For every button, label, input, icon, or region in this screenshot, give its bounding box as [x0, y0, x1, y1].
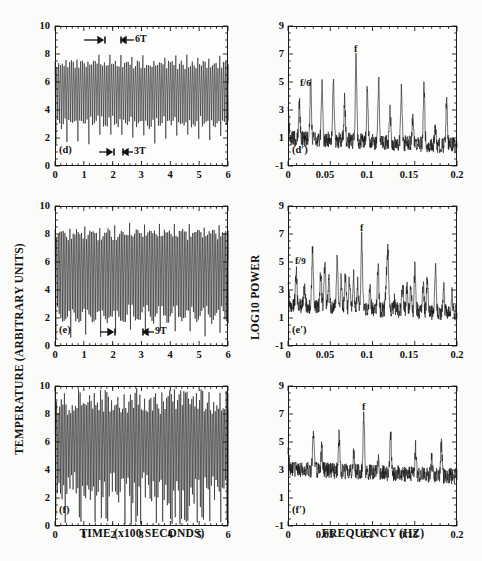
panel-f-prime: f (f′) — [288, 386, 457, 526]
xtick: 1 — [74, 530, 94, 541]
panel-label-d-prime: (d′) — [292, 145, 308, 156]
xtick: 0 — [45, 170, 65, 181]
panel-e-plot — [55, 206, 228, 346]
ytick: 9 — [262, 201, 284, 212]
panel-f-plot — [55, 386, 228, 526]
xtick: 0.2 — [444, 350, 470, 361]
annotation-6t-label: 6T — [135, 34, 147, 44]
xtick: 0.1 — [353, 170, 381, 181]
panel-f-trace — [55, 388, 228, 524]
xtick: 2 — [103, 530, 123, 541]
panel-e-prime-trace — [288, 232, 457, 320]
panel-f-prime-plot — [288, 386, 457, 526]
ytick: 5 — [262, 77, 284, 88]
xtick: 6 — [218, 170, 238, 181]
panel-f: (f) — [55, 386, 228, 526]
panel-e: 9T (e) — [55, 206, 228, 346]
ytick: 4 — [28, 465, 50, 476]
panel-f-prime-trace — [288, 412, 457, 484]
panel-label-e-prime: (e′) — [292, 325, 307, 336]
xtick: 0.2 — [444, 530, 470, 541]
peak-label-subharmonic-ep: f/9 — [295, 256, 306, 266]
ytick: 10 — [28, 381, 50, 392]
xtick: 0 — [45, 530, 65, 541]
left-y-axis-title: TEMPERATURE (ARBITRARY UNITS) — [14, 243, 26, 455]
panel-d-prime-trace — [288, 53, 457, 153]
xtick: 2 — [103, 170, 123, 181]
xtick: 5 — [189, 350, 209, 361]
xtick: 0.05 — [308, 170, 342, 181]
ytick: 1 — [262, 133, 284, 144]
ytick: 10 — [28, 201, 50, 212]
xtick: 0 — [278, 350, 298, 361]
ytick: 8 — [28, 49, 50, 60]
xtick: 3 — [131, 170, 151, 181]
xtick: 3 — [131, 350, 151, 361]
panel-d-trace — [55, 55, 228, 144]
xtick: 1 — [74, 170, 94, 181]
xtick: 4 — [160, 350, 180, 361]
ytick: 2 — [28, 133, 50, 144]
ytick: 9 — [262, 381, 284, 392]
ytick: 6 — [28, 257, 50, 268]
ytick: 1 — [262, 493, 284, 504]
xtick: 0.15 — [392, 350, 426, 361]
ytick: 5 — [262, 257, 284, 268]
panel-label-f-prime: (f′) — [292, 505, 305, 516]
panel-e-prime-plot — [288, 206, 457, 346]
panel-d-prime: f f/6 (d′) — [288, 26, 457, 166]
panel-e-prime: f f/9 (e′) — [288, 206, 457, 346]
xtick: 0.1 — [353, 530, 381, 541]
ytick: 10 — [28, 21, 50, 32]
xtick: 5 — [189, 170, 209, 181]
xtick: 6 — [218, 350, 238, 361]
xtick: 0.15 — [392, 530, 426, 541]
xtick: 0.05 — [308, 530, 342, 541]
ytick: 8 — [28, 229, 50, 240]
ytick: 4 — [28, 105, 50, 116]
panel-label-f: (f) — [59, 505, 70, 516]
annotation-9t-label: 9T — [155, 326, 167, 336]
xtick: 0.05 — [308, 350, 342, 361]
ytick: 6 — [28, 437, 50, 448]
ytick: 7 — [262, 229, 284, 240]
xtick: 4 — [160, 530, 180, 541]
xtick: 5 — [189, 530, 209, 541]
ytick: 6 — [28, 77, 50, 88]
peak-label-fundamental-fp: f — [362, 402, 365, 412]
ytick: 7 — [262, 409, 284, 420]
xtick: 3 — [131, 530, 151, 541]
ytick: 9 — [262, 21, 284, 32]
ytick: 3 — [262, 105, 284, 116]
peak-label-fundamental-ep: f — [360, 223, 363, 233]
ytick: 8 — [28, 409, 50, 420]
xtick: 0.2 — [444, 170, 470, 181]
annotation-3t-label: 3T — [134, 146, 146, 156]
panel-e-trace — [55, 223, 228, 338]
ytick: 1 — [262, 313, 284, 324]
ytick: 2 — [28, 313, 50, 324]
ytick: 3 — [262, 465, 284, 476]
ytick: 4 — [28, 285, 50, 296]
xtick: 2 — [103, 350, 123, 361]
ytick: 3 — [262, 285, 284, 296]
ytick: 7 — [262, 49, 284, 60]
xtick: 6 — [218, 530, 238, 541]
figure-panel-grid: TEMPERATURE (ARBITRARY UNITS) LOG10 POWE… — [0, 0, 482, 561]
right-y-axis-title: LOG10 POWER — [250, 254, 262, 340]
subharmonic-denominator: 9 — [301, 256, 306, 266]
peak-label-subharmonic-dp: f/6 — [300, 78, 311, 88]
xtick: 0 — [45, 350, 65, 361]
xtick: 0 — [278, 170, 298, 181]
subharmonic-denominator: 6 — [306, 78, 311, 88]
xtick: 0 — [278, 530, 298, 541]
panel-label-e: (e) — [59, 325, 71, 336]
xtick: 0.15 — [392, 170, 426, 181]
xtick: 0.1 — [353, 350, 381, 361]
peak-label-fundamental-dp: f — [354, 44, 357, 54]
panel-label-d: (d) — [59, 145, 72, 156]
xtick: 4 — [160, 170, 180, 181]
panel-d-prime-plot — [288, 26, 457, 166]
xtick: 1 — [74, 350, 94, 361]
ytick: 5 — [262, 437, 284, 448]
